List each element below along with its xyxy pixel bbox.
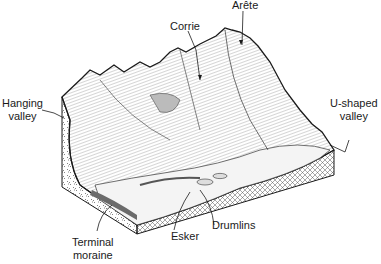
label-terminal-moraine-line1: Terminal [72, 236, 114, 248]
label-u-shaped-valley: U-shaped valley [330, 97, 378, 123]
label-hanging-valley-line1: Hanging [2, 97, 43, 109]
label-hanging-valley: Hanging valley [2, 97, 43, 123]
label-u-shaped-valley-line1: U-shaped [330, 97, 378, 109]
label-esker: Esker [171, 230, 199, 243]
drumlin [213, 173, 227, 178]
label-corrie: Corrie [170, 20, 200, 33]
label-terminal-moraine: Terminal moraine [72, 236, 114, 262]
label-u-shaped-valley-line2: valley [340, 110, 368, 122]
label-arete: Arête [232, 0, 258, 12]
drumlin [197, 179, 213, 185]
glacial-landforms-diagram [0, 0, 381, 264]
label-terminal-moraine-line2: moraine [73, 249, 113, 261]
label-drumlins: Drumlins [212, 219, 255, 232]
label-hanging-valley-line2: valley [8, 110, 36, 122]
leader-hanging-valley [42, 110, 64, 118]
